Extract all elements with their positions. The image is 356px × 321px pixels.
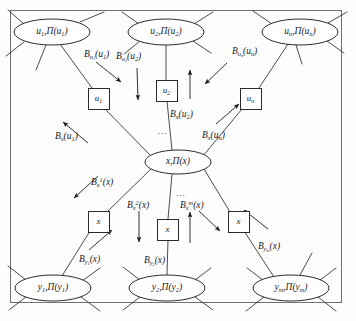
variable-node-label-u2: u2,Π(u2) <box>132 27 200 37</box>
message-label-msg-bun: Bun(un) <box>232 47 257 58</box>
message-label-msg-bxu2: Bx(u2) <box>170 110 193 120</box>
message-label-msg-bu2: Bu2(u2) <box>116 52 141 63</box>
variable-node-label-un: un,Π(un) <box>266 27 334 37</box>
variable-node-label-ym: ym,Π(ym) <box>257 283 325 293</box>
edge-boxxm-ym <box>244 231 274 277</box>
arrow-bxm-down <box>199 211 220 231</box>
dots-bottom: ... <box>176 188 186 198</box>
edge-x-boxx2 <box>168 174 172 219</box>
arrow-bu1-down <box>96 62 121 82</box>
message-label-msg-bx2: Bx2(x) <box>127 200 149 211</box>
arrow-bun-down <box>205 63 227 84</box>
arrow-bu2-down <box>137 68 138 100</box>
factor-box-label-box-u1: u1 <box>88 94 109 105</box>
edge-boxx2-y2 <box>167 240 168 275</box>
edge-un-boxun <box>259 44 288 88</box>
variable-node-label-u1: u1,Π(u1) <box>18 27 86 37</box>
message-label-msg-by1: By1(x) <box>79 255 100 266</box>
factor-box-label-box-x1: x <box>88 217 109 226</box>
edge-x-boxxm <box>204 169 230 212</box>
factor-box-label-box-u2: u2 <box>156 86 177 97</box>
dots-top: ... <box>158 126 168 136</box>
message-label-msg-bxun: Bx(un) <box>202 131 225 141</box>
edge-boxu1-x <box>105 109 152 157</box>
variable-node-label-x: x,Π(x) <box>149 157 207 167</box>
message-label-msg-bu1: Bu1(u1) <box>84 50 109 61</box>
message-label-msg-by2: By2(x) <box>144 256 165 267</box>
variable-node-label-y1: y1,Π(y1) <box>19 283 87 293</box>
arrow-bxun-up <box>216 104 239 124</box>
message-label-msg-bym: Bym(x) <box>258 242 280 253</box>
diagram-canvas: u1,Π(u1)u2,Π(u2)un,Π(un)x,Π(x)y1,Π(y1)y2… <box>0 0 356 321</box>
factor-box-label-box-un: un <box>240 94 261 105</box>
message-label-msg-bx1: Bx1(x) <box>91 177 113 188</box>
factor-box-label-box-x2: x <box>157 225 178 234</box>
message-label-msg-bxu1: Bx(u1) <box>55 132 78 142</box>
factor-box-label-box-xm: x <box>228 217 249 226</box>
edge-boxx1-y1 <box>62 231 90 276</box>
variable-node-label-y2: y2,Π(y2) <box>133 283 201 293</box>
message-label-msg-bxm: Bxm(x) <box>180 200 204 211</box>
